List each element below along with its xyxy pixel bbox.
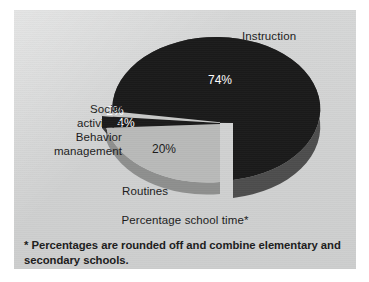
- chart-axis-caption: Percentage school time*: [14, 214, 356, 228]
- pie-label-instruction: Instruction: [242, 30, 296, 44]
- figure-root: 74% 20% 4% 2% Instruction Social activit…: [0, 0, 369, 282]
- pie-label-behavior-management-line1: Behavior: [32, 131, 122, 145]
- pie-label-social-activities-line2: activities: [50, 117, 122, 131]
- chart-panel: 74% 20% 4% 2% Instruction Social activit…: [14, 10, 356, 269]
- slice-value-routines: 20%: [152, 142, 176, 156]
- chart-footnote: * Percentages are rounded off and combin…: [24, 238, 354, 267]
- pie-label-routines: Routines: [122, 185, 168, 199]
- pie-label-behavior-management: Behavior management: [32, 131, 122, 158]
- slice-value-instruction: 74%: [208, 73, 232, 87]
- pie-label-social-activities-line1: Social: [50, 103, 122, 117]
- pie-label-social-activities: Social activities: [50, 103, 122, 130]
- pie-label-behavior-management-line2: management: [32, 145, 122, 159]
